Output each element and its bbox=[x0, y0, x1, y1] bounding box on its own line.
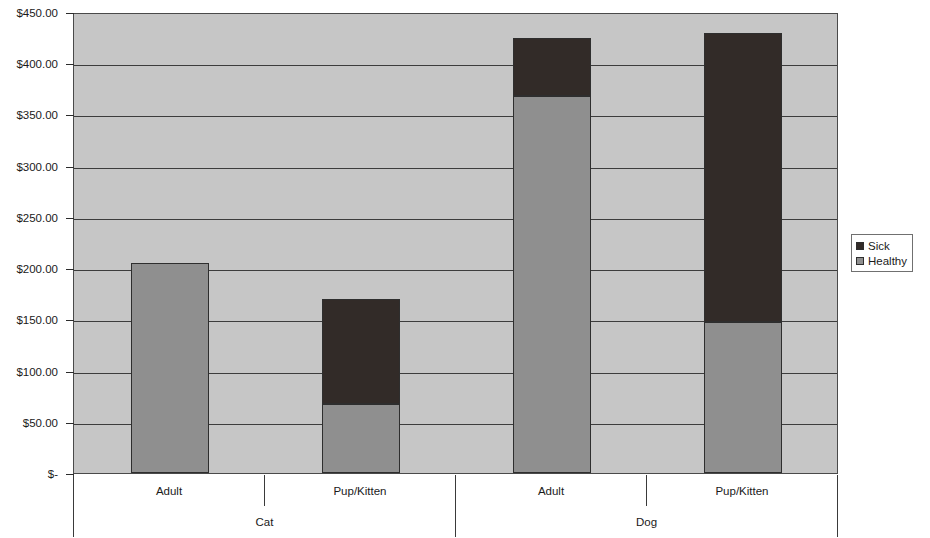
bar-segment-healthy[interactable] bbox=[322, 404, 400, 473]
stacked-bar-chart: $450.00$400.00$350.00$300.00$250.00$200.… bbox=[0, 0, 930, 538]
bar-segment-healthy[interactable] bbox=[704, 322, 782, 473]
y-axis-tick-label: $450.00 bbox=[16, 7, 58, 19]
legend-item[interactable]: Sick bbox=[856, 238, 907, 253]
legend-label: Sick bbox=[868, 240, 890, 252]
y-axis-tick-mark bbox=[66, 423, 74, 424]
category-label-age: Adult bbox=[74, 475, 264, 506]
category-label-age: Pup/Kitten bbox=[264, 475, 455, 506]
y-axis-tick-label: $- bbox=[48, 468, 58, 480]
bar-segment-sick[interactable] bbox=[322, 299, 400, 405]
legend-swatch-icon bbox=[856, 257, 864, 265]
bar-stack[interactable] bbox=[131, 263, 209, 473]
bar-segment-healthy[interactable] bbox=[131, 263, 209, 473]
y-axis-tick-label: $200.00 bbox=[16, 263, 58, 275]
y-axis-tick-mark bbox=[66, 167, 74, 168]
y-axis-tick-label: $150.00 bbox=[16, 314, 58, 326]
legend-swatch-icon bbox=[856, 242, 864, 250]
category-label-age: Pup/Kitten bbox=[646, 475, 837, 506]
chart-legend: SickHealthy bbox=[851, 234, 913, 272]
y-axis-tick-label: $400.00 bbox=[16, 58, 58, 70]
y-axis-tick-label: $250.00 bbox=[16, 212, 58, 224]
category-label-age: Adult bbox=[455, 475, 646, 506]
bar-stack[interactable] bbox=[322, 299, 400, 473]
y-axis-tick-label: $50.00 bbox=[23, 417, 58, 429]
category-row-age: AdultPup/KittenAdultPup/Kitten bbox=[74, 475, 837, 506]
bar-segment-sick[interactable] bbox=[704, 33, 782, 323]
y-axis-tick-label: $300.00 bbox=[16, 161, 58, 173]
category-row-species: CatDog bbox=[74, 506, 837, 537]
category-label-table: AdultPup/KittenAdultPup/Kitten CatDog bbox=[73, 475, 838, 537]
y-axis-tick-mark bbox=[66, 64, 74, 65]
category-label-species: Dog bbox=[455, 506, 837, 537]
plot-area bbox=[73, 13, 838, 474]
y-axis-tick-mark bbox=[66, 115, 74, 116]
y-axis-tick-mark bbox=[66, 13, 74, 14]
legend-item[interactable]: Healthy bbox=[856, 253, 907, 268]
y-axis-tick-mark bbox=[66, 372, 74, 373]
y-axis: $450.00$400.00$350.00$300.00$250.00$200.… bbox=[0, 0, 68, 538]
y-axis-tick-label: $100.00 bbox=[16, 366, 58, 378]
bar-stack[interactable] bbox=[513, 38, 591, 473]
bar-segment-sick[interactable] bbox=[513, 38, 591, 96]
bar-stack[interactable] bbox=[704, 33, 782, 474]
category-label-species: Cat bbox=[74, 506, 455, 537]
y-axis-tick-mark bbox=[66, 474, 74, 475]
y-axis-tick-label: $350.00 bbox=[16, 109, 58, 121]
legend-label: Healthy bbox=[868, 255, 907, 267]
y-axis-tick-mark bbox=[66, 320, 74, 321]
bar-segment-healthy[interactable] bbox=[513, 96, 591, 473]
y-axis-tick-mark bbox=[66, 218, 74, 219]
y-axis-tick-mark bbox=[66, 269, 74, 270]
